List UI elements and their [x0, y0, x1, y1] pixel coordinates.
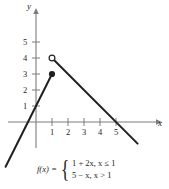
open-point-marker [49, 55, 55, 61]
y-tick-label-4: 4 [20, 54, 30, 63]
y-tick-label-1: 1 [20, 102, 30, 111]
x-axis-label: x [158, 119, 162, 128]
x-tick-label-2: 2 [63, 128, 73, 137]
case-row-2: 5 − x, x > 1 [72, 171, 115, 180]
equals-sign: = [50, 164, 59, 174]
y-tick-label-3: 3 [20, 70, 30, 79]
left-brace: { [60, 162, 69, 176]
function-name-label: f(x) [37, 164, 50, 174]
x-tick-label-5: 5 [111, 128, 121, 137]
x-tick-label-3: 3 [79, 128, 89, 137]
piecewise-function-figure: y x 1 2 3 4 5 1 2 3 4 5 f(x) = { 1 + 2x,… [0, 0, 169, 189]
x-tick-label-1: 1 [47, 128, 57, 137]
closed-point-marker [49, 71, 55, 77]
y-axis-label: y [27, 2, 31, 11]
case-row-1: 1 + 2x, x ≤ 1 [72, 159, 115, 168]
x-tick-label-4: 4 [95, 128, 105, 137]
y-tick-label-5: 5 [20, 38, 30, 47]
cases-list: 1 + 2x, x ≤ 1 5 − x, x > 1 [72, 159, 115, 180]
piecewise-formula-caption: f(x) = { 1 + 2x, x ≤ 1 5 − x, x > 1 [37, 152, 165, 186]
y-axis-arrow [33, 8, 39, 14]
y-tick-label-2: 2 [20, 86, 30, 95]
